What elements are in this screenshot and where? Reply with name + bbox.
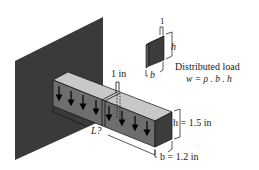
width-label: b = 1.2 in	[160, 151, 198, 162]
cantilever-diagram: 1 in L? h = 1.5 in b = 1.2 in 1 h b Di	[0, 0, 259, 170]
inset-unit-label: 1	[160, 16, 165, 26]
inset-slice-front	[146, 43, 149, 68]
height-label: h = 1.5 in	[173, 117, 211, 128]
inset-slice-face	[149, 36, 164, 66]
load-title: Distributed load	[175, 61, 240, 72]
inset-h-label: h	[171, 41, 176, 52]
length-label: L?	[90, 125, 102, 136]
slice-width-label: 1 in	[111, 68, 126, 79]
load-formula: w = ρ . b . h	[186, 74, 232, 84]
inset-b-label: b	[150, 69, 155, 80]
